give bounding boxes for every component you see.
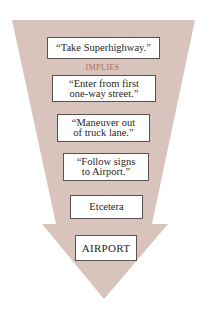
step-box-4: “Follow signs to Airport.” xyxy=(63,153,149,181)
step-1-line-1: “Take Superhighway.” xyxy=(56,43,151,53)
step-box-5: Etcetera xyxy=(70,195,143,219)
goal-box: AIRPORT xyxy=(75,235,137,261)
step-4-line-2: to Airport.” xyxy=(82,167,130,177)
implication-funnel-diagram: “Take Superhighway.” IMPLIES “Enter from… xyxy=(0,0,205,311)
step-2-line-2: one-way street.” xyxy=(70,89,139,99)
goal-label: AIRPORT xyxy=(82,243,131,253)
step-box-3: “Maneuver out of truck lane.” xyxy=(57,114,150,142)
implies-label: IMPLIES xyxy=(0,63,205,72)
step-5-line-1: Etcetera xyxy=(89,202,123,212)
step-box-1: “Take Superhighway.” xyxy=(47,37,160,59)
step-2-line-1: “Enter from first xyxy=(69,79,139,89)
step-3-line-2: of truck lane.” xyxy=(73,128,133,138)
step-box-2: “Enter from first one-way street.” xyxy=(52,75,156,102)
